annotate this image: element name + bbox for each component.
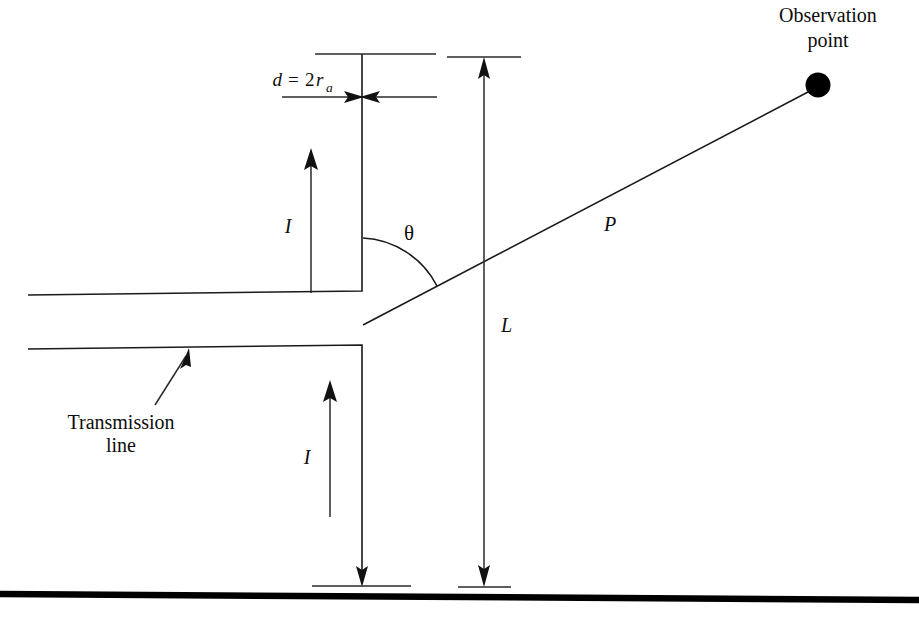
observation-point-label-line1: Observation	[779, 4, 877, 26]
transmission-line-leader-shaft	[155, 356, 186, 405]
current-label-lower: I	[303, 446, 312, 468]
diameter-label-r-subscript: a	[326, 80, 333, 95]
height-label-l: L	[500, 314, 512, 336]
diameter-label-d: d	[273, 69, 283, 90]
antenna-diagram-canvas: d = 2 r a I I Transmission line P Observ…	[0, 0, 919, 622]
upper-transmission-line	[28, 54, 362, 295]
diameter-label-r: r	[316, 69, 324, 90]
diameter-label-equals: =	[288, 69, 299, 90]
observation-point-dot	[806, 73, 831, 98]
antenna-geometry-svg: d = 2 r a I I Transmission line P Observ…	[0, 0, 919, 622]
transmission-line-label-line1: Transmission	[67, 411, 174, 433]
observation-point-label-line2: point	[807, 29, 849, 52]
diameter-label-two: 2	[305, 69, 315, 90]
angle-arc-theta	[363, 238, 437, 286]
current-label-upper: I	[284, 215, 293, 237]
transmission-line-label-line2: line	[106, 434, 136, 456]
distance-label-p: P	[603, 213, 616, 235]
transmission-line-leader-head	[180, 348, 191, 369]
angle-label-theta: θ	[404, 221, 414, 245]
ground-plane-line	[0, 594, 919, 600]
lower-transmission-line	[28, 345, 362, 583]
ray-to-observation-point	[363, 92, 808, 325]
